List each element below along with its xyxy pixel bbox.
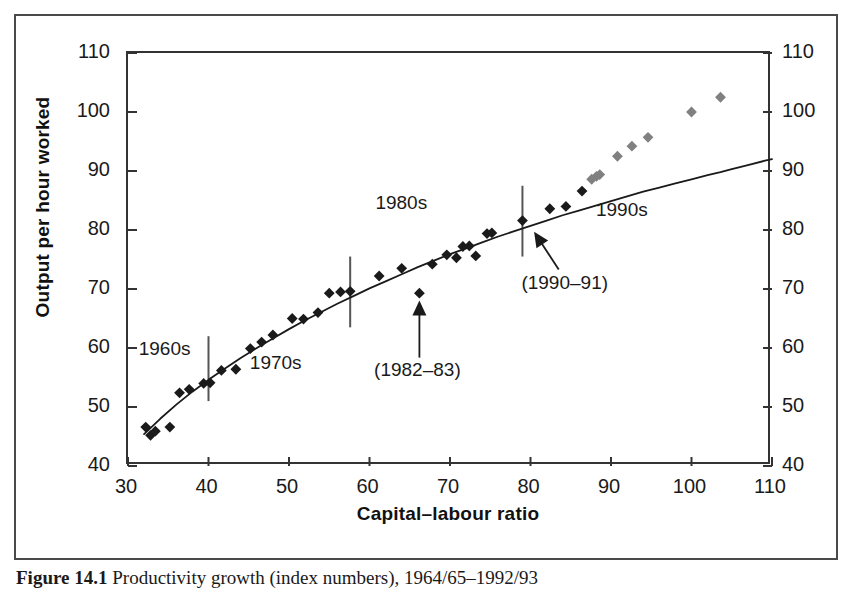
- data-point-1960s-1980s: [324, 288, 335, 299]
- data-point-1960s-1980s: [441, 249, 452, 260]
- y-tick-label-left-110: 110: [78, 41, 110, 61]
- y-tick-label-left-90: 90: [88, 159, 110, 179]
- data-point-1960s-1980s: [268, 330, 279, 341]
- era-label-1990s: 1990s: [596, 200, 648, 219]
- x-tick-label-50: 50: [257, 476, 317, 496]
- y-tick-label-right-100: 100: [782, 100, 815, 120]
- y-tick-label-left-60: 60: [88, 336, 110, 356]
- figure-root: 405060708090100110 405060708090100110 30…: [0, 0, 852, 589]
- y-tick-label-right-60: 60: [782, 336, 804, 356]
- y-tick-label-left-50: 50: [88, 395, 110, 415]
- data-point-1960s-1980s: [184, 384, 195, 395]
- y-tick-label-right-110: 110: [782, 41, 814, 61]
- era-label-1970s: 1970s: [250, 353, 302, 372]
- data-point-1960s-1980s: [230, 364, 241, 375]
- x-tick-label-70: 70: [418, 476, 478, 496]
- y-tick-label-right-80: 80: [782, 218, 804, 238]
- x-tick-label-40: 40: [177, 476, 237, 496]
- y-axis-title: Output per hour worked: [32, 77, 54, 337]
- data-point-1960s-1980s: [577, 186, 588, 197]
- recession-1990-91-arrow-shaft: [541, 243, 559, 270]
- x-axis-title: Capital–labour ratio: [126, 503, 770, 525]
- data-point-1960s-1980s: [374, 271, 385, 282]
- x-tick-label-80: 80: [499, 476, 559, 496]
- caption-label: Figure 14.1: [16, 567, 107, 588]
- y-tick-label-left-70: 70: [88, 277, 110, 297]
- era-label-1980s: 1980s: [375, 193, 427, 212]
- x-tick-label-110: 110: [740, 476, 800, 496]
- y-tick-label-left-100: 100: [77, 100, 110, 120]
- figure-frame: 405060708090100110 405060708090100110 30…: [14, 14, 838, 560]
- recession-1982-83-arrow-head: [412, 300, 426, 315]
- fitted-curve: [144, 159, 772, 434]
- data-point-1960s-1980s: [205, 377, 216, 388]
- y-tick-label-right-70: 70: [782, 277, 804, 297]
- data-point-1960s-1980s: [544, 203, 555, 214]
- data-point-1960s-1980s: [164, 422, 175, 433]
- plot-canvas: [128, 53, 772, 466]
- data-point-1990s: [627, 141, 638, 152]
- annotation-label-recession-1982-83: (1982–83): [374, 360, 461, 379]
- data-point-1960s-1980s: [335, 287, 346, 298]
- recession-1990-91-arrow-head: [528, 228, 548, 248]
- data-point-1960s-1980s: [414, 288, 425, 299]
- caption-text: Productivity growth (index numbers), 196…: [112, 567, 538, 588]
- data-point-1990s: [715, 92, 726, 103]
- data-point-1960s-1980s: [287, 313, 298, 324]
- y-tick-label-left-40: 40: [88, 454, 110, 474]
- data-point-1960s-1980s: [517, 215, 528, 226]
- plot-area: [126, 51, 770, 464]
- x-tick-label-90: 90: [579, 476, 639, 496]
- annotation-label-recession-1990-91: (1990–91): [521, 273, 608, 292]
- data-point-1960s-1980s: [464, 241, 475, 252]
- x-tick-label-100: 100: [660, 476, 720, 496]
- data-point-1960s-1980s: [174, 387, 185, 398]
- y-tick-label-left-80: 80: [88, 218, 110, 238]
- y-tick-label-right-50: 50: [782, 395, 804, 415]
- data-point-1990s: [612, 151, 623, 162]
- data-point-1960s-1980s: [470, 251, 481, 262]
- data-point-1960s-1980s: [256, 337, 267, 348]
- data-point-1990s: [686, 107, 697, 118]
- x-tick-label-30: 30: [96, 476, 156, 496]
- era-label-1960s: 1960s: [139, 339, 191, 358]
- figure-caption: Figure 14.1 Productivity growth (index n…: [16, 566, 846, 589]
- y-tick-label-right-90: 90: [782, 159, 804, 179]
- y-tick-label-right-40: 40: [782, 454, 804, 474]
- data-point-1960s-1980s: [140, 422, 151, 433]
- data-point-1960s-1980s: [561, 201, 572, 212]
- x-tick-label-60: 60: [338, 476, 398, 496]
- data-point-1990s: [643, 132, 654, 143]
